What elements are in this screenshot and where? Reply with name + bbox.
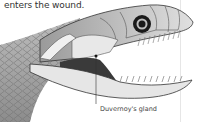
- label-duvernoys-gland: Duvernoy's gland: [100, 105, 157, 113]
- lower-jaw: [30, 64, 192, 98]
- snake-head: [40, 5, 193, 62]
- snake-head-illustration: [0, 0, 199, 122]
- eye: [133, 15, 151, 33]
